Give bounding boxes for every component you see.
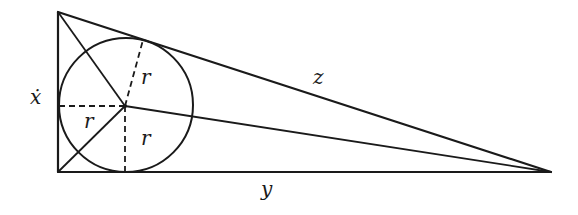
label-y: y <box>260 177 273 201</box>
hypotenuse-z <box>58 12 551 172</box>
label-z: z <box>312 65 324 89</box>
label-r-lower: r <box>141 126 152 150</box>
label-r-left: r <box>84 109 95 133</box>
label-x: ẋ <box>30 85 41 109</box>
incircle-triangle-diagram: ẋ y z r r r <box>0 0 578 215</box>
label-r-upper: r <box>141 65 152 89</box>
bisector-right-vertex <box>125 106 551 172</box>
bisector-top-vertex <box>58 12 125 106</box>
incenter-point <box>123 104 127 108</box>
